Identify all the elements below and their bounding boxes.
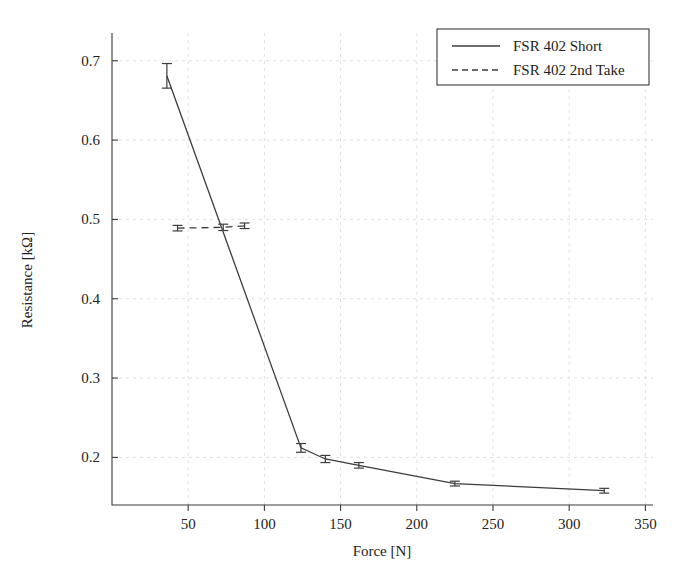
error-bar [354, 463, 364, 469]
x-tick-label: 250 [482, 516, 505, 532]
error-bar [320, 455, 330, 462]
x-tick-label: 150 [329, 516, 352, 532]
data-series-0 [162, 64, 609, 494]
axis-lines [112, 33, 653, 505]
x-tick-label: 200 [406, 516, 429, 532]
y-tick-label: 0.3 [81, 370, 100, 386]
series-line [178, 226, 245, 228]
x-axis-ticks: 50100150200250300350 [181, 505, 657, 532]
y-tick-label: 0.7 [81, 53, 100, 69]
data-series-1 [173, 223, 250, 231]
x-tick-label: 300 [558, 516, 581, 532]
error-bar [296, 444, 306, 453]
x-tick-label: 100 [253, 516, 276, 532]
y-tick-label: 0.2 [81, 449, 100, 465]
chart-canvas: 50100150200250300350 0.20.30.40.50.60.7 … [0, 0, 700, 588]
gridlines [112, 33, 653, 505]
y-tick-label: 0.5 [81, 211, 100, 227]
legend-label-0: FSR 402 Short [513, 38, 603, 54]
x-tick-label: 350 [634, 516, 657, 532]
y-tick-label: 0.6 [81, 132, 100, 148]
series-line [167, 76, 604, 491]
chart-figure: 50100150200250300350 0.20.30.40.50.60.7 … [0, 0, 700, 588]
y-axis-title: Resistance [kΩ] [19, 232, 35, 329]
chart-legend: FSR 402 Short FSR 402 2nd Take [437, 29, 649, 85]
y-tick-label: 0.4 [81, 291, 100, 307]
legend-label-1: FSR 402 2nd Take [513, 62, 625, 78]
x-tick-label: 50 [181, 516, 196, 532]
data-series-group [162, 64, 609, 494]
plot-axes-frame [112, 33, 653, 505]
x-axis-title: Force [N] [353, 543, 412, 559]
